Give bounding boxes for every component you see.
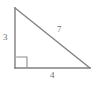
- side-label-leg-vertical: 3: [3, 33, 8, 42]
- side-label-leg-horizontal: 4: [50, 71, 55, 80]
- right-angle-marker-icon: [16, 57, 27, 67]
- side-label-hypotenuse: 7: [57, 25, 62, 34]
- right-triangle-diagram: 3 7 4: [0, 0, 97, 86]
- triangle-hypotenuse-line: [15, 8, 90, 68]
- triangle-figure: [0, 0, 97, 86]
